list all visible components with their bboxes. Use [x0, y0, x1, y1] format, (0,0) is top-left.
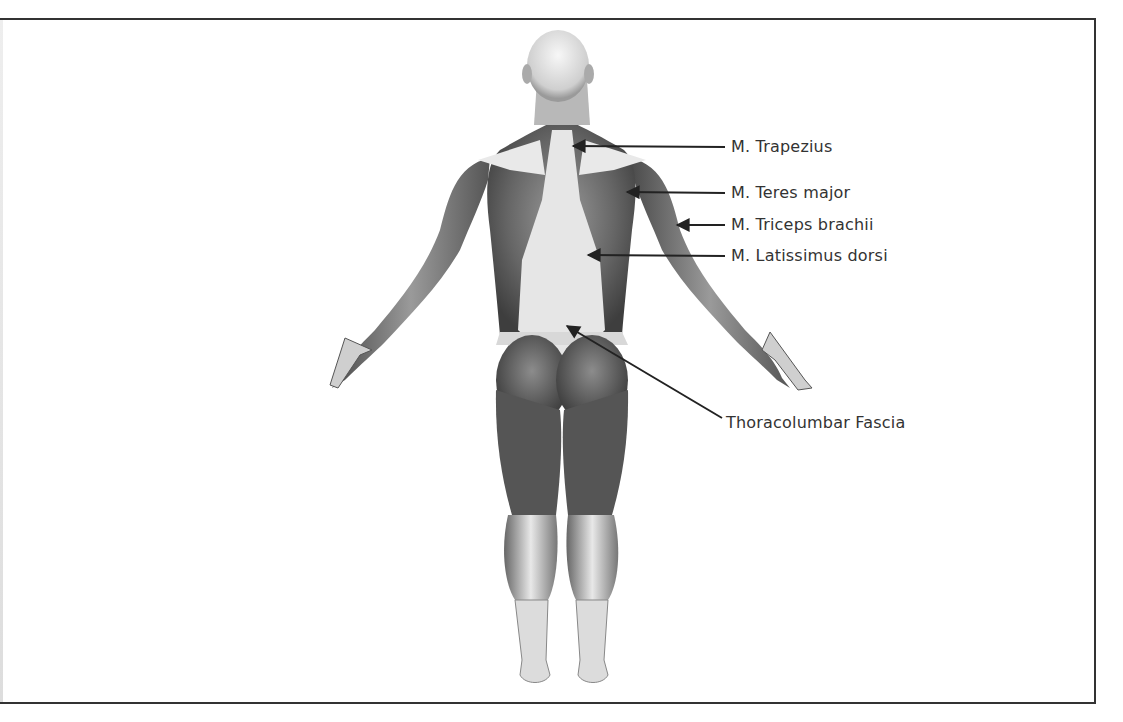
label-teres-major: M. Teres major: [731, 183, 850, 202]
right-lower-leg: [576, 600, 608, 683]
label-thoracolumbar-fascia: Thoracolumbar Fascia: [726, 413, 905, 432]
label-triceps-brachii: M. Triceps brachii: [731, 215, 874, 234]
left-lower-leg: [515, 600, 550, 683]
right-calf: [566, 515, 618, 600]
label-trapezius: M. Trapezius: [731, 137, 833, 156]
anatomy-figure: [0, 0, 1123, 722]
right-thigh: [563, 390, 628, 515]
right-ear: [584, 64, 594, 84]
arrow-latissimus-dorsi: [588, 255, 725, 256]
label-latissimus-dorsi: M. Latissimus dorsi: [731, 246, 888, 265]
left-ear: [522, 64, 532, 84]
head: [527, 30, 589, 102]
arrow-trapezius: [573, 146, 725, 147]
arrow-teres-major: [627, 192, 725, 193]
left-thigh: [496, 390, 561, 515]
left-calf: [504, 515, 558, 600]
